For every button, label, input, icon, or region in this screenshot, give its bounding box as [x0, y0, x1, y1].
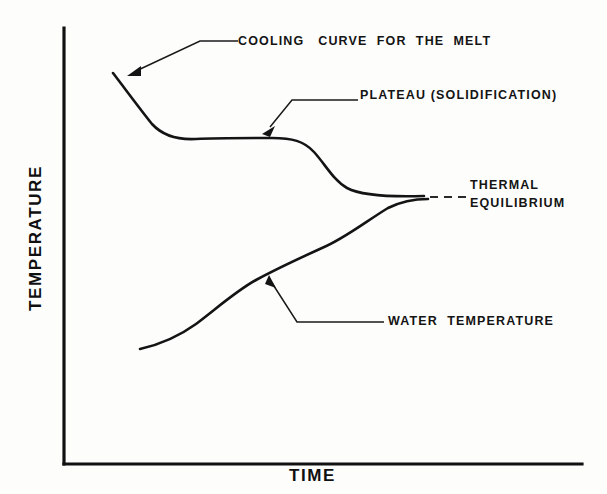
plateau-arrowhead-icon [262, 126, 275, 137]
water-temperature-leader-line [272, 283, 384, 322]
cooling-curve-leader-line [136, 41, 238, 71]
figure-canvas: COOLING CURVE FOR THE MELT PLATEAU (SOLI… [0, 0, 607, 494]
annotation-thermal-equilibrium-line1: THERMAL [470, 178, 539, 192]
water-temperature-curve [140, 199, 428, 349]
thermal-cooling-curve-figure [0, 0, 607, 494]
plateau-leader-line [270, 100, 358, 127]
x-axis-label: TIME [289, 466, 336, 486]
annotation-cooling-curve: COOLING CURVE FOR THE MELT [238, 32, 491, 50]
y-axis-label: TEMPERATURE [26, 138, 46, 338]
cooling-curve-arrowhead-icon [127, 66, 141, 76]
water-temperature-arrowhead-icon [265, 275, 276, 288]
annotation-water-temperature: WATER TEMPERATURE [388, 312, 554, 330]
annotation-plateau: PLATEAU (SOLIDIFICATION) [360, 86, 557, 104]
annotation-thermal-equilibrium: THERMALEQUILIBRIUM [470, 176, 565, 212]
annotation-thermal-equilibrium-line2: EQUILIBRIUM [470, 196, 565, 210]
